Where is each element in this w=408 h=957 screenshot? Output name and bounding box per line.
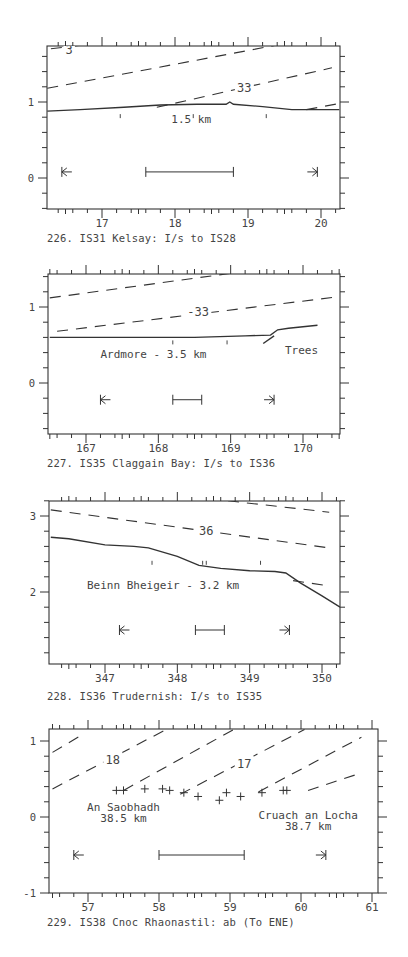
contour-dashed-line: [124, 730, 234, 791]
left-limit-arrow-icon: [62, 167, 72, 177]
x-tick-label: 348: [167, 672, 187, 685]
y-tick-label: 2: [30, 586, 36, 598]
x-tick-label: 58: [152, 901, 165, 914]
contour-label: -33: [187, 305, 209, 319]
profile-line: [263, 336, 274, 344]
contour-label: 18: [106, 753, 120, 767]
contour-label: 3: [66, 43, 73, 57]
y-tick-label: 0: [28, 172, 34, 184]
contour-label: 33: [237, 81, 251, 95]
annotation-label: Trees: [285, 344, 318, 357]
annotation-label: 38.5 km: [100, 812, 147, 825]
plot-frame: [47, 46, 340, 209]
x-tick-label: 57: [81, 901, 94, 914]
annotation-label: 38.7 km: [285, 820, 332, 833]
chart-panel-226: 17181920013331.5 km: [28, 37, 349, 230]
x-tick-label: 349: [240, 672, 260, 685]
profile-line: [50, 325, 318, 337]
x-tick-label: 168: [148, 442, 168, 455]
right-limit-arrow-icon: [264, 395, 274, 405]
chart-caption-226: 226. IS31 Kelsay: I/s to IS28: [47, 232, 236, 244]
chart-panel-227: 16716816917001-33Ardmore - 3.5 kmTrees: [29, 265, 349, 455]
contour-dashed-line: [293, 581, 329, 586]
annotation-label: Beinn Bheigeir - 3.2 km: [87, 579, 240, 592]
profile-line: [51, 537, 340, 607]
contour-dashed-line: [53, 733, 85, 752]
left-limit-arrow-icon: [100, 395, 110, 405]
annotation-label: 1.5 km: [171, 113, 211, 126]
x-tick-label: 60: [294, 901, 307, 914]
contour-dashed-line: [308, 773, 361, 791]
contour-dashed-line: [306, 104, 339, 110]
y-tick-label: -1: [23, 887, 36, 899]
profile-line: [47, 102, 339, 111]
annotation-label: Ardmore - 3.5 km: [100, 348, 206, 361]
x-tick-label: 18: [168, 217, 181, 230]
y-tick-label: 1: [30, 735, 36, 747]
contour-label: 17: [237, 757, 251, 771]
contour-dashed-line: [228, 501, 329, 512]
left-limit-arrow-icon: [74, 850, 84, 860]
contour-label: 36: [199, 524, 213, 538]
x-tick-label: 19: [241, 217, 254, 230]
right-limit-arrow-icon: [316, 850, 326, 860]
contour-dashed-line: [50, 273, 235, 298]
x-tick-label: 20: [314, 217, 327, 230]
y-tick-label: 0: [29, 377, 35, 389]
y-tick-label: 1: [28, 96, 34, 108]
y-tick-label: 0: [30, 811, 36, 823]
x-tick-label: 350: [312, 672, 332, 685]
left-limit-arrow-icon: [119, 625, 129, 635]
x-tick-label: 170: [293, 442, 313, 455]
x-tick-label: 61: [365, 901, 378, 914]
right-limit-arrow-icon: [279, 625, 289, 635]
right-limit-arrow-icon: [307, 167, 317, 177]
x-tick-label: 169: [221, 442, 241, 455]
y-tick-label: 3: [30, 510, 36, 522]
chart-panel-228: 3473483493502336Beinn Bheigeir - 3.2 km: [30, 492, 349, 685]
chart-caption-228: 228. IS36 Trudernish: I/s to IS35: [47, 690, 262, 702]
chart-caption-227: 227. IS35 Claggain Bay: I/s to IS36: [47, 457, 275, 469]
chart-panel-229: 5758596061-1011817An Saobhadh38.5 kmCrua…: [23, 720, 387, 914]
chart-caption-229: 229. IS38 Cnoc Rhaonastil: ab (To ENE): [47, 916, 295, 928]
chart-canvas: 17181920013331.5 km16716816917001-33Ardm…: [0, 0, 408, 957]
x-tick-label: 347: [95, 672, 115, 685]
x-tick-label: 167: [76, 442, 96, 455]
y-tick-label: 1: [29, 301, 35, 313]
x-tick-label: 17: [95, 217, 108, 230]
x-tick-label: 59: [223, 901, 236, 914]
